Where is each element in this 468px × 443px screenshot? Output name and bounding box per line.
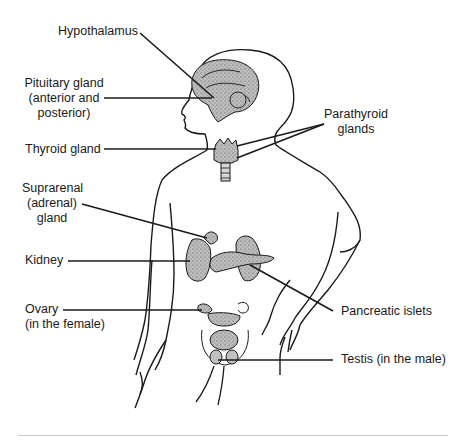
brain xyxy=(192,60,259,122)
label-pancreatic-islets: Pancreatic islets xyxy=(341,304,432,319)
label-pituitary-gland: Pituitary gland (anterior and posterior) xyxy=(24,76,104,121)
pelvic-organs xyxy=(196,302,248,405)
ovary xyxy=(198,304,212,313)
label-hypothalamus: Hypothalamus xyxy=(58,24,138,39)
leader-pancreatic xyxy=(250,265,333,311)
label-testis: Testis (in the male) xyxy=(341,352,446,367)
label-parathyroid-glands: Parathyroid glands xyxy=(316,107,396,137)
label-thyroid-gland: Thyroid gland xyxy=(25,142,101,157)
testis xyxy=(210,350,222,364)
label-suprarenal-gland: Suprarenal (adrenal) gland xyxy=(22,181,82,226)
leader-suprarenal xyxy=(82,204,207,238)
label-ovary: Ovary (in the female) xyxy=(25,302,105,332)
uterus xyxy=(208,313,240,326)
thyroid-gland xyxy=(214,138,238,181)
abdominal-organs xyxy=(186,232,274,281)
leader-parathyroid-2 xyxy=(237,124,324,158)
label-kidney: Kidney xyxy=(25,253,63,268)
bottom-divider xyxy=(18,435,448,436)
left-kidney xyxy=(186,239,211,281)
endocrine-diagram: Hypothalamus Pituitary gland (anterior a… xyxy=(0,0,468,443)
